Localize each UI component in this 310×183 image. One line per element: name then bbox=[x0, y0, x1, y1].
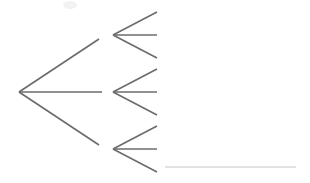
child-bottom-node-fan bbox=[113, 126, 157, 172]
edge-top-arm-upper bbox=[113, 12, 157, 35]
root-node-fan bbox=[19, 39, 102, 145]
child-middle-node-fan bbox=[113, 69, 157, 115]
edge-root-upper bbox=[19, 39, 99, 92]
edge-bottom-arm-upper bbox=[113, 126, 157, 149]
diagram-canvas bbox=[0, 0, 310, 183]
edge-root-lower bbox=[19, 92, 99, 145]
edge-middle-arm-lower bbox=[113, 92, 157, 115]
child-top-node-fan bbox=[113, 12, 157, 58]
edge-top-arm-lower bbox=[113, 35, 157, 58]
top-smudge-artifact bbox=[63, 1, 77, 9]
tree-diagram bbox=[0, 0, 310, 183]
edge-bottom-arm-lower bbox=[113, 149, 157, 172]
edge-middle-arm-upper bbox=[113, 69, 157, 92]
